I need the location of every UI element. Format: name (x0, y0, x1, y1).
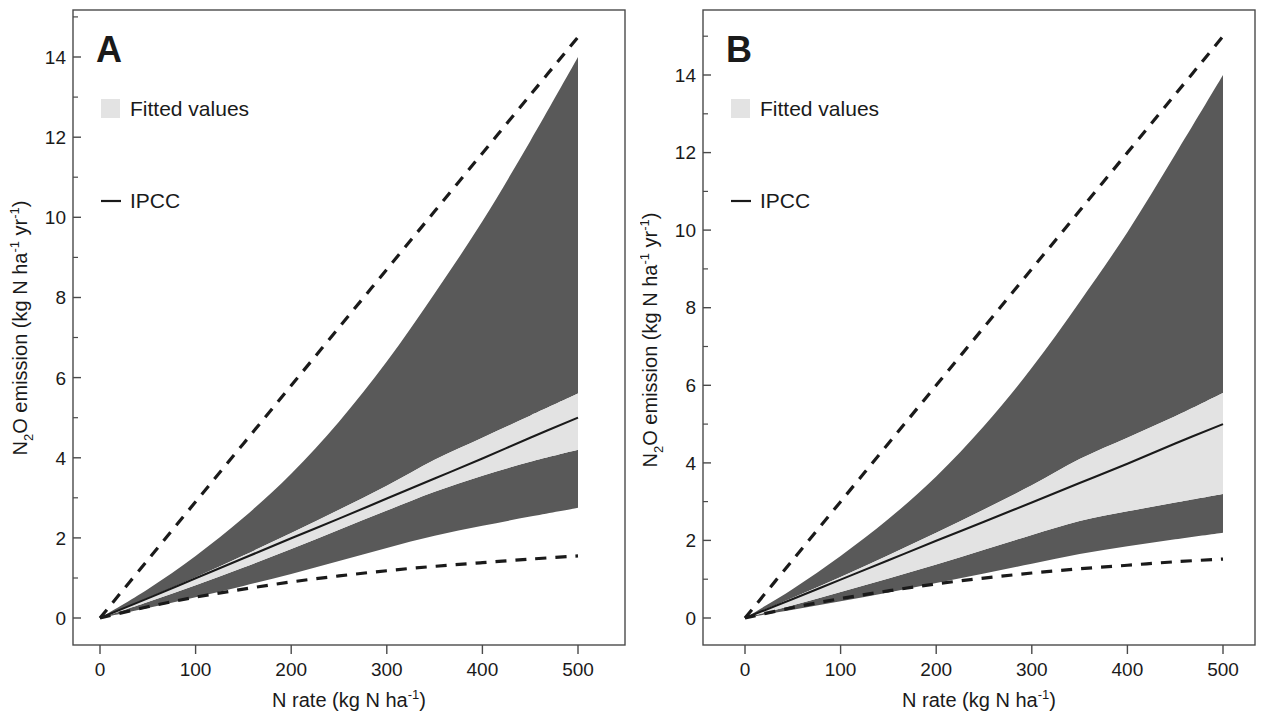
y-axis-title-a: N2O emission (kg N ha-1 yr-1) (7, 201, 36, 456)
panel-letter-a: A (96, 29, 122, 70)
y-tick-label: 0 (55, 608, 66, 629)
fitted-values-swatch-a (101, 99, 120, 118)
x-axis-ticks-a (100, 645, 578, 654)
x-axis-title-b: N rate (kg N ha-1) (902, 687, 1056, 711)
ipcc-label-b: IPCC (760, 189, 810, 212)
y-tick-label: 8 (55, 287, 66, 308)
y-tick-label: 14 (45, 47, 67, 68)
y-tick-label: 2 (685, 530, 696, 551)
x-tick-label: 300 (371, 659, 403, 680)
y-tick-label: 4 (55, 448, 66, 469)
plot-data-b (745, 36, 1223, 618)
x-tick-label: 0 (95, 659, 106, 680)
x-tick-label: 400 (467, 659, 499, 680)
y-tick-label: 6 (55, 368, 66, 389)
y-tick-labels-b: 14 12 10 8 6 4 2 0 (675, 65, 697, 629)
panel-b-svg: 14 12 10 8 6 4 2 0 0 100 200 (640, 0, 1272, 712)
x-tick-label: 100 (180, 659, 212, 680)
x-tick-labels-b: 0 100 200 300 400 500 (740, 659, 1239, 680)
y-tick-labels-a: 14 12 10 8 6 4 2 0 (45, 47, 67, 629)
y-tick-label: 0 (685, 608, 696, 629)
y-tick-label: 2 (55, 528, 66, 549)
plot-data-a (100, 37, 578, 618)
chart-panel-b: 14 12 10 8 6 4 2 0 0 100 200 (640, 0, 1272, 712)
legend-b: Fitted values IPCC (731, 97, 879, 212)
x-tick-label: 400 (1112, 659, 1144, 680)
y-axis-title-b: N2O emission (kg N ha-1 yr-1) (640, 213, 666, 468)
x-tick-label: 300 (1016, 659, 1048, 680)
x-tick-label: 500 (1207, 659, 1239, 680)
x-axis-ticks-b (745, 645, 1223, 654)
fitted-values-label-b: Fitted values (760, 97, 879, 120)
y-tick-label: 4 (685, 453, 696, 474)
x-tick-label: 0 (740, 659, 751, 680)
chart-panel-a: 14 12 10 8 6 4 2 0 0 100 (0, 0, 640, 712)
y-tick-label: 6 (685, 375, 696, 396)
fitted-values-label-a: Fitted values (130, 97, 249, 120)
x-tick-label: 200 (275, 659, 307, 680)
y-tick-label: 10 (675, 220, 696, 241)
x-tick-label: 200 (920, 659, 952, 680)
x-tick-label: 100 (825, 659, 857, 680)
x-tick-label: 500 (562, 659, 594, 680)
y-tick-label: 12 (45, 127, 66, 148)
legend-a: Fitted values IPCC (101, 97, 249, 212)
y-tick-label: 8 (685, 297, 696, 318)
figure-container: 14 12 10 8 6 4 2 0 0 100 (0, 0, 1272, 712)
panel-a-svg: 14 12 10 8 6 4 2 0 0 100 (0, 0, 640, 712)
x-axis-title-a: N rate (kg N ha-1) (272, 687, 426, 711)
y-tick-label: 10 (45, 207, 66, 228)
ipcc-label-a: IPCC (130, 189, 180, 212)
fitted-values-swatch-b (731, 99, 750, 118)
y-tick-label: 14 (675, 65, 697, 86)
y-tick-label: 12 (675, 142, 696, 163)
x-tick-labels-a: 0 100 200 300 400 500 (95, 659, 594, 680)
panel-letter-b: B (726, 29, 752, 70)
